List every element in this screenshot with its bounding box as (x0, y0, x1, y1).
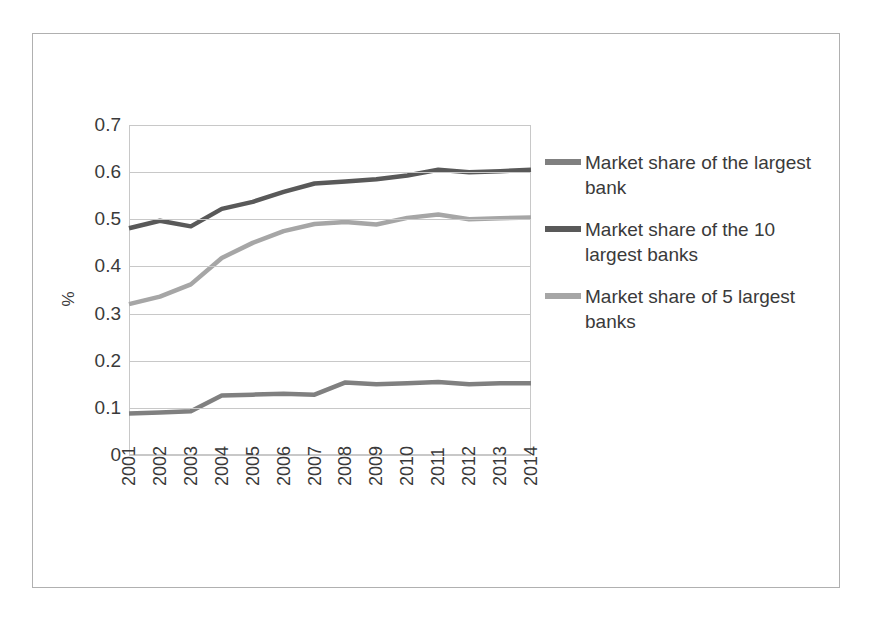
gridline (129, 125, 531, 126)
x-axis-tick-label: 2004 (213, 458, 231, 486)
x-axis-tick-label: 2006 (275, 458, 293, 486)
x-axis-tick-label: 2013 (491, 458, 509, 486)
legend-swatch-icon (545, 159, 581, 165)
x-axis-tick-label: 2007 (306, 458, 324, 486)
y-axis-tick-label: 0.1 (61, 398, 121, 417)
legend-item[interactable]: Market share of the largest bank (545, 150, 825, 200)
x-axis-tick-label: 2010 (398, 458, 416, 486)
x-axis-tick-label: 2008 (336, 458, 354, 486)
gridline (129, 219, 531, 220)
legend-item-label: Market share of the 10 largest banks (585, 217, 813, 267)
x-axis-tick-label: 2002 (151, 458, 169, 486)
chart-figure: 0.70.60.50.40.30.20.10 % 200120022003200… (32, 33, 840, 588)
gridline (129, 361, 531, 362)
y-axis-label: % (59, 279, 79, 319)
legend-item-label: Market share of the largest bank (585, 150, 813, 200)
x-axis-tick-label: 2012 (460, 458, 478, 486)
x-axis-tick-label: 2009 (367, 458, 385, 486)
x-axis-tick-label: 2003 (182, 458, 200, 486)
legend-item-label: Market share of 5 largest banks (585, 284, 813, 334)
y-axis-tick-label: 0.2 (61, 351, 121, 370)
x-axis-tick-label: 2014 (522, 458, 540, 486)
gridline (129, 172, 531, 173)
y-axis-tick-label: 0.4 (61, 256, 121, 275)
gridline (129, 266, 531, 267)
legend-swatch-icon (545, 226, 581, 232)
x-axis-tick-label: 2005 (244, 458, 262, 486)
plot-area-wrapper (129, 125, 531, 455)
gridline (129, 408, 531, 409)
y-axis-tick-label: 0.5 (61, 209, 121, 228)
legend-item[interactable]: Market share of 5 largest banks (545, 284, 825, 334)
chart-legend: Market share of the largest bankMarket s… (545, 150, 825, 351)
x-axis-tick-label: 2011 (429, 458, 447, 486)
x-axis-tick-labels: 2001200220032004200520062007200820092010… (129, 457, 531, 537)
y-axis-tick-label: 0.7 (61, 115, 121, 134)
x-axis-tick-label: 2001 (120, 458, 138, 486)
series-lines (129, 125, 531, 455)
y-axis-tick-label: 0.6 (61, 162, 121, 181)
gridline (129, 314, 531, 315)
legend-item[interactable]: Market share of the 10 largest banks (545, 217, 825, 267)
legend-swatch-icon (545, 293, 581, 299)
y-axis-tick-label: 0 (61, 445, 121, 464)
